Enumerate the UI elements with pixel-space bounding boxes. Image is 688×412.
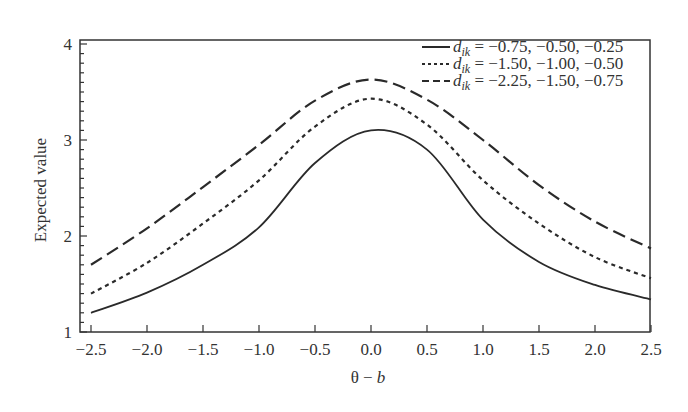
x-axis: −2.5−2.0−1.5−1.0−0.50.00.51.01.52.02.5 [76, 325, 662, 359]
x-tick-label: 0.0 [360, 340, 381, 359]
y-tick-label: 2 [64, 227, 73, 246]
x-axis-title: θ − b [351, 368, 386, 387]
series-line-dashed [91, 80, 651, 265]
x-tick-label: −1.0 [244, 340, 275, 359]
series-line-dotted [91, 99, 651, 294]
x-tick-label: 1.0 [472, 340, 493, 359]
x-tick-label: 0.5 [416, 340, 437, 359]
x-tick-label: 1.5 [528, 340, 549, 359]
expected-value-chart: 1234 −2.5−2.0−1.5−1.0−0.50.00.51.01.52.0… [0, 0, 688, 412]
x-tick-label: 2.0 [584, 340, 605, 359]
y-tick-label: 4 [64, 35, 73, 54]
legend-entry: dik = −2.25, −1.50, −0.75 [453, 71, 623, 93]
y-axis-title: Expected value [31, 138, 50, 242]
y-tick-label: 3 [64, 131, 73, 150]
y-tick-label: 1 [64, 323, 73, 342]
legend: dik = −0.75, −0.50, −0.25dik = −1.50, −1… [422, 37, 623, 93]
x-tick-label: −2.0 [132, 340, 163, 359]
y-axis: 1234 [64, 35, 88, 342]
series-line-solid [91, 130, 651, 313]
x-tick-label: 2.5 [640, 340, 661, 359]
x-tick-label: −0.5 [300, 340, 331, 359]
series-layer [91, 80, 651, 313]
x-tick-label: −2.5 [76, 340, 107, 359]
x-tick-label: −1.5 [188, 340, 219, 359]
